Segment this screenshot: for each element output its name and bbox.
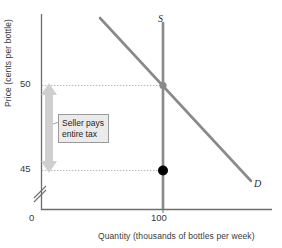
- plot-area: [0, 0, 282, 248]
- demand-curve: [100, 18, 251, 181]
- y-axis-title: Price (cents per bottle): [3, 3, 13, 123]
- tax-incidence-arrow: [41, 83, 57, 173]
- y-tick-label-50: 50: [20, 78, 31, 89]
- demand-curve-label: D: [254, 178, 261, 189]
- x-tick-label-100: 100: [151, 212, 167, 223]
- equilibrium-marker-after-tax: [158, 166, 168, 176]
- supply-curve-label: S: [158, 13, 163, 24]
- y-tick-label-45: 45: [20, 163, 31, 174]
- x-axis-title: Quantity (thousands of bottles per week): [98, 231, 255, 241]
- annotation-line-1: Seller pays: [62, 118, 108, 129]
- equilibrium-marker-before-tax: [159, 82, 166, 89]
- annotation-seller-pays-entire-tax: Seller pays entire tax: [58, 114, 109, 143]
- y-axis-break-icon: [34, 186, 46, 202]
- annotation-line-2: entire tax: [62, 129, 108, 140]
- x-tick-label-0: 0: [29, 212, 34, 223]
- economics-supply-demand-chart: S D 50 45 0 100 Price (cents per bottle)…: [0, 0, 282, 248]
